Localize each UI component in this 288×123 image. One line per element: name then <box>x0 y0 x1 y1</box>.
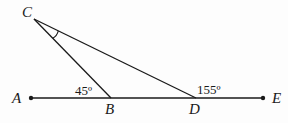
angle-arc-c <box>53 31 59 38</box>
label-c: C <box>22 4 33 20</box>
point-e-dot <box>261 96 265 100</box>
point-a-dot <box>29 96 33 100</box>
angle-label-d: 155º <box>197 82 221 97</box>
label-d: D <box>188 101 200 117</box>
segment-cd <box>34 19 196 98</box>
label-a: A <box>11 90 22 106</box>
segment-cb <box>34 19 111 98</box>
geometry-diagram: C A B D E 45º 155º <box>0 0 288 123</box>
diagram-svg: C A B D E 45º 155º <box>0 0 288 123</box>
label-b: B <box>105 101 114 117</box>
angle-label-b: 45º <box>75 83 92 98</box>
label-e: E <box>271 90 281 106</box>
